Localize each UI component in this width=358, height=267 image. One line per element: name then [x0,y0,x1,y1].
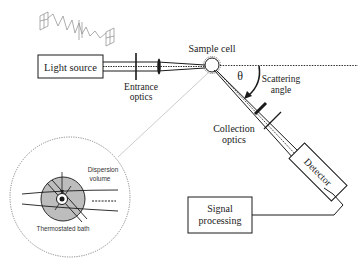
light-source-label: Light source [44,62,97,73]
collection-optics-label-1: Collection [213,123,255,134]
signal-processing-box: Signal processing [188,197,252,233]
sample-cell-label: Sample cell [189,43,236,54]
entrance-optics-label-1: Entrance [124,82,158,92]
dispersion-volume-label-2: volume [90,175,111,182]
collection-optics-label-2: optics [222,134,246,145]
scattering-angle-label-1: Scattering [262,74,301,84]
signal-processing-label-1: Signal [207,203,233,214]
theta-symbol: θ [237,69,243,83]
incident-beam [103,62,206,71]
sample-cell [204,57,221,74]
signal-processing-label-2: processing [199,215,242,226]
scattering-angle-arrow [248,66,260,96]
entrance-optics-label-2: optics [130,92,153,102]
light-source-box: Light source [38,55,103,78]
thermostated-bath-label: Thermostated bath [37,225,90,232]
dispersion-volume-label-1: Dispersion [88,166,119,174]
light-scattering-diagram: Light source Entrance optics Sample cell… [0,0,358,267]
light-wave-icon [40,12,114,46]
detector-box: Detector [289,143,347,201]
inset-magnifier: Dispersion volume Thermostated bath [10,137,130,257]
scattering-angle-label-2: angle [271,85,292,95]
